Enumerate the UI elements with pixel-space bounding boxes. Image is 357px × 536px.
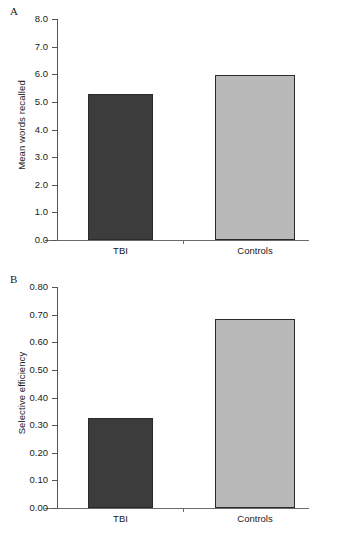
panel-a-ytick-label-8: 8.0 (35, 13, 48, 24)
panel-b-ytick-5: 0.50 (52, 370, 57, 371)
panel-a-xlabel-tbi: TBI (88, 245, 153, 257)
panel-b-ytick-4: 0.40 (52, 398, 57, 399)
panel-a-ytick-4: 4.0 (52, 130, 57, 131)
panel-a-ytick-label-4: 4.0 (35, 124, 48, 135)
bar-panel-a-controls (215, 75, 295, 240)
panel-a-y-axis-title: Mean words recalled (14, 9, 30, 241)
panel-b-ytick-0: 0.00 (52, 508, 57, 509)
panel-b-ytick-6: 0.60 (52, 342, 57, 343)
panel-a-ytick-0: 0.0 (52, 240, 57, 241)
panel-b-y-axis-line (57, 287, 58, 509)
panel-a: A Mean words recalled 0.0 1.0 2.0 3.0 4.… (0, 0, 357, 268)
panel-a-ytick-label-2: 2.0 (35, 179, 48, 190)
panel-b-ytick-1: 0.10 (52, 480, 57, 481)
panel-a-ytick-1: 1.0 (52, 212, 57, 213)
panel-b-xtick-separator (183, 508, 184, 512)
panel-a-ytick-label-0: 0.0 (35, 234, 48, 245)
panel-b-ytick-label-7: 0.70 (30, 309, 49, 320)
panel-b-ytick-label-2: 0.20 (30, 447, 49, 458)
panel-a-ytick-7: 7.0 (52, 47, 57, 48)
panel-b-x-axis-line (45, 508, 309, 509)
panel-b-ytick-label-6: 0.60 (30, 336, 49, 347)
panel-b-ytick-label-0: 0.00 (30, 502, 49, 513)
panel-b-xlabel-tbi: TBI (88, 513, 153, 525)
panel-a-ytick-2: 2.0 (52, 185, 57, 186)
panel-a-y-axis-line (57, 19, 58, 241)
panel-a-xlabel-controls: Controls (215, 245, 295, 257)
panel-a-ytick-label-7: 7.0 (35, 41, 48, 52)
panel-a-plot-area: 0.0 1.0 2.0 3.0 4.0 5.0 6.0 7.0 8.0 (57, 19, 309, 240)
panel-a-ytick-8: 8.0 (52, 19, 57, 20)
bar-panel-b-tbi (88, 418, 153, 508)
figure: A Mean words recalled 0.0 1.0 2.0 3.0 4.… (0, 0, 357, 536)
panel-a-xtick-separator (183, 240, 184, 244)
panel-b-ytick-3: 0.30 (52, 425, 57, 426)
bar-panel-b-controls (215, 319, 295, 508)
panel-a-ytick-label-3: 3.0 (35, 151, 48, 162)
panel-b: B Selective efficiency 0.00 0.10 0.20 0.… (0, 268, 357, 536)
panel-a-ytick-label-6: 6.0 (35, 68, 48, 79)
panel-a-ytick-label-5: 5.0 (35, 96, 48, 107)
panel-b-plot-area: 0.00 0.10 0.20 0.30 0.40 0.50 0.60 0.70 … (57, 287, 309, 508)
panel-b-y-axis-title: Selective efficiency (14, 277, 30, 509)
panel-b-ytick-8: 0.80 (52, 287, 57, 288)
panel-a-ytick-3: 3.0 (52, 157, 57, 158)
panel-b-ytick-label-5: 0.50 (30, 364, 49, 375)
panel-a-ytick-label-1: 1.0 (35, 206, 48, 217)
panel-b-ytick-7: 0.70 (52, 315, 57, 316)
panel-a-ytick-6: 6.0 (52, 74, 57, 75)
panel-b-ytick-2: 0.20 (52, 453, 57, 454)
panel-a-x-axis-line (45, 240, 309, 241)
panel-b-ytick-label-3: 0.30 (30, 419, 49, 430)
panel-b-ytick-label-8: 0.80 (30, 281, 49, 292)
panel-b-ytick-label-4: 0.40 (30, 392, 49, 403)
panel-b-ytick-label-1: 0.10 (30, 474, 49, 485)
bar-panel-a-tbi (88, 94, 153, 240)
panel-b-xlabel-controls: Controls (215, 513, 295, 525)
panel-a-ytick-5: 5.0 (52, 102, 57, 103)
